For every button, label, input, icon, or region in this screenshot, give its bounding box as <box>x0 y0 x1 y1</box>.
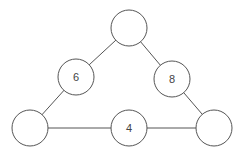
node-right-mid: 8 <box>154 61 190 97</box>
node-bottom-right <box>196 110 232 146</box>
node-left-mid: 6 <box>58 59 94 95</box>
node-label: 6 <box>73 71 79 83</box>
node-label: 4 <box>126 122 132 134</box>
node-label: 8 <box>169 73 175 85</box>
node-bottom-left <box>12 110 48 146</box>
triangle-diagram: 6 8 4 <box>0 0 240 155</box>
node-top <box>111 10 147 46</box>
node-bottom-mid: 4 <box>111 110 147 146</box>
